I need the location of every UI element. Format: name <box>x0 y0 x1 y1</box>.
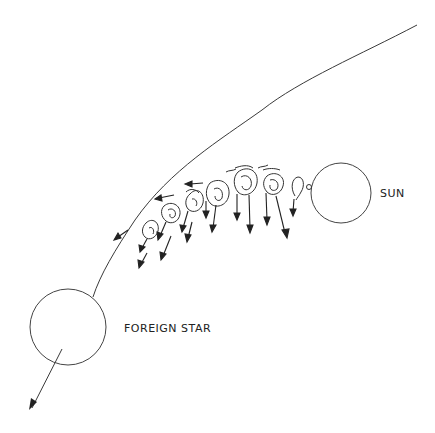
condensation-7 <box>162 203 181 222</box>
foreign-star-motion-arrow <box>32 349 62 408</box>
condensation-5 <box>206 180 229 206</box>
motion-arrows <box>114 181 296 268</box>
condensation-3 <box>263 169 284 195</box>
condensation-1 <box>307 185 312 190</box>
foreign-star-label: FOREIGN STAR <box>124 322 211 335</box>
condensation-6 <box>186 189 203 211</box>
sun-circle <box>311 163 371 223</box>
diagram-canvas: SUN FOREIGN STAR <box>0 0 435 433</box>
sun-label: SUN <box>380 187 405 200</box>
condensation-8 <box>142 220 158 238</box>
condensation-4 <box>234 166 257 195</box>
foreign-star-trajectory <box>93 25 417 297</box>
condensation-2 <box>292 177 303 200</box>
foreign-star-circle <box>30 289 106 365</box>
filament-condensations <box>142 166 311 239</box>
